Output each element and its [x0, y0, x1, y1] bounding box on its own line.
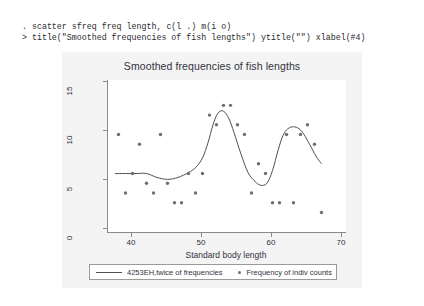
data-point — [306, 123, 309, 126]
x-tickmark-50 — [201, 233, 202, 237]
data-point — [278, 201, 281, 204]
plot-svg — [108, 80, 346, 232]
data-point — [257, 162, 260, 165]
data-point — [187, 172, 190, 175]
x-axis-title: Standard body length — [107, 250, 345, 260]
data-point — [215, 123, 218, 126]
scatter-points — [117, 104, 323, 215]
graph-window: Smoothed frequencies of fish lengths 15 … — [62, 52, 362, 288]
x-tick-label-60: 60 — [259, 238, 283, 247]
data-point — [271, 201, 274, 204]
data-point — [250, 191, 253, 194]
data-point — [131, 172, 134, 175]
data-point — [299, 133, 302, 136]
data-point — [194, 191, 197, 194]
data-point — [222, 104, 225, 107]
y-tick-label-5: 5 — [66, 180, 74, 198]
x-tick-label-50: 50 — [189, 238, 213, 247]
plot-area — [107, 80, 346, 233]
data-point — [208, 113, 211, 116]
data-point — [117, 133, 120, 136]
data-point — [159, 133, 162, 136]
data-point — [320, 211, 323, 214]
y-tick-label-0: 0 — [66, 229, 74, 247]
x-tickmark-60 — [271, 233, 272, 237]
legend-label-marker: Frequency of indiv counts — [246, 268, 331, 277]
series-line-4253eh-twice-of-frequencies — [115, 111, 322, 186]
data-point — [152, 191, 155, 194]
data-point — [229, 104, 232, 107]
x-tick-label-70: 70 — [329, 238, 353, 247]
data-point — [180, 201, 183, 204]
chart-legend: 4253EH,twice of frequencies Frequency of… — [89, 264, 337, 280]
data-point — [243, 133, 246, 136]
y-tick-label-10: 10 — [66, 131, 74, 149]
data-point — [313, 143, 316, 146]
command-line-1: . scatter sfreq freq length, c(l .) m(i … — [22, 22, 231, 32]
data-point — [285, 133, 288, 136]
data-point — [264, 172, 267, 175]
y-tick-label-15: 15 — [66, 82, 74, 100]
chart-title: Smoothed frequencies of fish lengths — [62, 60, 362, 72]
data-point — [166, 182, 169, 185]
legend-entry-line: 4253EH,twice of frequencies — [96, 268, 222, 277]
smoothed-line — [115, 111, 322, 186]
legend-dot-swatch-icon — [238, 271, 241, 274]
data-point — [236, 123, 239, 126]
console-output: . scatter sfreq freq length, c(l .) m(i … — [0, 0, 424, 50]
x-tickmark-40 — [131, 233, 132, 237]
data-point — [173, 201, 176, 204]
data-point — [138, 143, 141, 146]
x-tick-label-40: 40 — [119, 238, 143, 247]
legend-line-swatch-icon — [96, 272, 122, 273]
data-point — [145, 182, 148, 185]
data-point — [201, 172, 204, 175]
legend-label-line: 4253EH,twice of frequencies — [127, 268, 222, 277]
data-point — [292, 201, 295, 204]
x-tickmark-70 — [341, 233, 342, 237]
data-point — [124, 191, 127, 194]
command-line-2: > title("Smoothed frequencies of fish le… — [22, 33, 366, 43]
legend-entry-marker: Frequency of indiv counts — [238, 268, 331, 277]
